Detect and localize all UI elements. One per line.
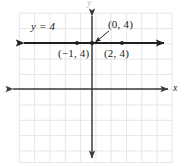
point-neg1-4 <box>75 41 79 45</box>
point-label-0-4: (0, 4) <box>108 19 133 30</box>
point-2-4 <box>120 41 124 45</box>
x-axis-label: x <box>173 83 178 93</box>
point-label-2-4: (2, 4) <box>104 48 129 59</box>
y-axis-label: y <box>87 0 92 8</box>
point-label-neg1-4: (−1, 4) <box>58 48 89 59</box>
graph-canvas <box>0 0 191 166</box>
point-0-4 <box>90 41 94 45</box>
coordinate-plane-figure: y = 4 (0, 4) (−1, 4) (2, 4) x y <box>0 0 191 166</box>
line-equation-label: y = 4 <box>31 21 55 32</box>
